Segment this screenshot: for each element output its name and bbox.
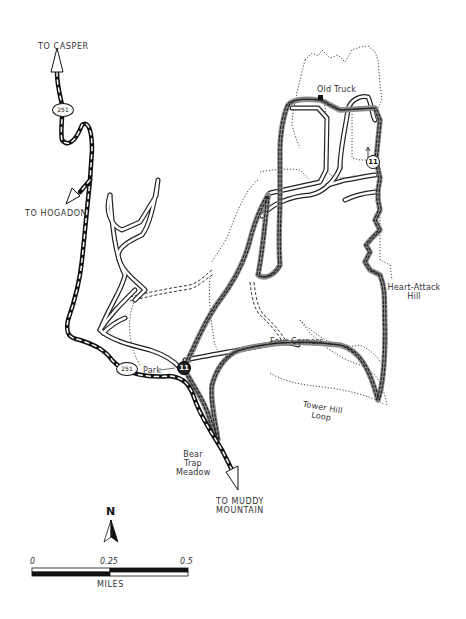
label-heart-attack-line2: Hill [386,292,442,301]
label-to-muddy-line1: TO MUDDY [210,497,270,506]
scale-tick-0-5: 0.5 [180,557,193,566]
label-to-casper: TO CASPER [38,42,89,51]
label-to-muddy-mountain: TO MUDDY MOUNTAIN [210,497,270,515]
highway-shield-south: 251 [116,362,138,376]
featured-trail [183,99,386,440]
label-bear-trap-meadow: Bear Trap Meadow [176,450,210,477]
label-bear-trap-line1: Bear [176,450,210,459]
scale-tick-0-25: 0.25 [100,557,118,566]
arrow-to-casper-icon [51,48,63,72]
park-leader-line [160,368,175,370]
trail-map [0,0,466,619]
label-to-muddy-line2: MOUNTAIN [210,506,270,515]
dirt-roads [100,97,375,368]
label-heart-attack-line1: Heart-Attack [386,283,442,292]
scale-bar [32,568,188,576]
upper-trail-marker: 11 [366,155,380,169]
north-arrow-icon [104,520,118,542]
label-heart-attack-hill: Heart-Attack Hill [386,283,442,301]
scale-unit-label: MILES [97,580,124,589]
label-park: Park [143,366,161,375]
old-truck-icon [318,95,323,100]
label-to-hogadon: TO HOGADON [25,209,87,218]
label-bear-trap-line3: Meadow [176,468,210,477]
trailhead-marker: 11 [177,361,191,375]
label-old-truck: Old Truck [317,85,356,94]
highway-shield-north: 251 [52,103,74,117]
scale-tick-0: 0 [30,557,35,566]
label-bear-trap-line2: Trap [176,459,210,468]
north-label: N [106,505,115,518]
arrow-to-muddy-mountain-icon [226,466,238,490]
arrow-to-hogadon-icon [66,188,80,204]
label-four-corners: Four Corners [270,337,324,346]
